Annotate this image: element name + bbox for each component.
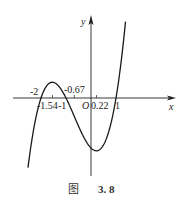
- tick-label-minus-0-67: -0.67: [64, 84, 85, 95]
- origin-label: O: [82, 100, 89, 111]
- figure-caption-number: 3. 8: [98, 183, 115, 195]
- function-graph: x y -2 -0.67 -1.54 -1 O 0.22 1 图 3. 8: [0, 0, 188, 212]
- tick-label-minus-1: -1: [58, 100, 66, 111]
- x-axis-label: x: [168, 101, 174, 112]
- figure-caption-prefix: 图: [68, 183, 79, 195]
- y-axis-label: y: [80, 16, 86, 27]
- tick-label-0-22: 0.22: [91, 100, 109, 111]
- tick-label-minus-1-54: -1.54: [37, 100, 58, 111]
- tick-label-1: 1: [115, 100, 120, 111]
- tick-label-minus-2: -2: [30, 86, 38, 97]
